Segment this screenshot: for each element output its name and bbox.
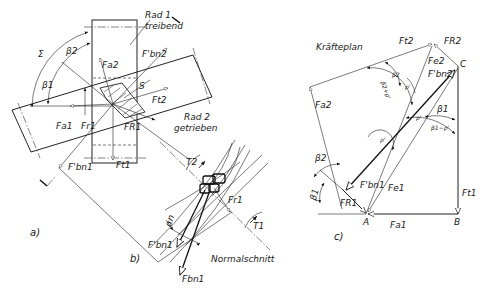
fa2-c-label: Fa2 <box>315 100 332 110</box>
fbn2-c-label: F'bn2 <box>428 69 453 79</box>
normalschnitt-label: Normalschnitt <box>211 254 275 264</box>
alpha-n-label: αn <box>163 213 176 228</box>
fe2-c-label: Fe2 <box>428 56 445 66</box>
beta1-label: β1 <box>41 80 53 90</box>
sigma-label: Σ <box>38 49 44 59</box>
beta2-c-label: β2 <box>392 71 400 79</box>
rad2-label: Rad 2 <box>184 112 210 122</box>
rho-c-label-1: ρ' <box>405 83 411 91</box>
point-b-label: B <box>454 217 460 227</box>
beta2-c-lower-label: β2 <box>314 153 327 163</box>
ft1-c-label: Ft1 <box>462 188 476 198</box>
fbn1-b-label: Fbn1 <box>182 274 204 284</box>
rho-c-label-3: ρ' <box>380 136 386 144</box>
kraefteplan-label: Kräfteplan <box>316 42 363 52</box>
fa2-label: Fa2 <box>102 60 119 70</box>
fr1-label: Fr1 <box>81 121 96 131</box>
point-a-label: A <box>362 217 369 227</box>
beta1-c-lower-label: β1 <box>308 188 321 203</box>
beta2-label: β2 <box>65 46 78 56</box>
point-c-label: C <box>460 59 467 69</box>
fbn2-label: F'bn2 <box>142 49 167 59</box>
t2-label: T2 <box>186 157 197 167</box>
t1-label: T1 <box>253 221 264 231</box>
gear-force-diagram: Rad 1 treibend Rad 2 getrieben S Σ β1 β2… <box>0 0 480 294</box>
panel-a: Rad 1 treibend Rad 2 getrieben S Σ β1 β2… <box>12 10 218 262</box>
fa1-label: Fa1 <box>56 121 72 131</box>
panel-c: Kräfteplan Ft2 FR2 C Fe2 F'bn2 Fa2 β2 ρ'… <box>308 36 477 242</box>
fR1-c-label: FR1 <box>340 198 357 208</box>
fR2-c-label: FR2 <box>444 36 461 46</box>
rad2-role: getrieben <box>174 123 218 133</box>
rad1-label: Rad 1 <box>145 10 171 20</box>
panel-c-label: c) <box>334 231 343 242</box>
beta2-plus-rho-label: β2+ρ' <box>379 80 393 100</box>
ft2-c-label: Ft2 <box>399 36 414 46</box>
panel-b: T2 T1 Fr1 αn F'bn1 Fbn1 Normalschnitt b) <box>130 140 275 284</box>
fbn1-label: F'bn1 <box>68 162 93 172</box>
panel-a-label: a) <box>30 227 40 238</box>
fR1-label: FR1 <box>124 122 141 132</box>
fe1-c-label: Fe1 <box>388 183 404 193</box>
point-s-label: S <box>139 81 145 91</box>
beta1-c-label: β1 <box>436 104 448 114</box>
rad1-role: treibend <box>145 21 183 31</box>
rho-c-label-2: ρ' <box>416 114 422 122</box>
panel-b-label: b) <box>130 253 140 264</box>
fr1-b-label: Fr1 <box>228 195 243 205</box>
fa1-c-label: Fa1 <box>390 220 406 230</box>
ft2-label: Ft2 <box>152 95 167 105</box>
fbn1-prime-b-label: F'bn1 <box>148 240 173 250</box>
ft1-label: Ft1 <box>116 160 130 170</box>
fbn1-c-label: F'bn1 <box>360 180 385 190</box>
beta1-minus-rho-label: β1−ρ' <box>431 124 449 132</box>
